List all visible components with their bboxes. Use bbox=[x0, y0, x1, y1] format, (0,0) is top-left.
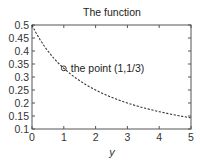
y-tick-label: 0.25 bbox=[9, 84, 30, 96]
y-tick-label: 0.3 bbox=[14, 71, 29, 83]
x-tick-label: 1 bbox=[61, 131, 67, 143]
x-tick-label: 0 bbox=[29, 131, 35, 143]
y-tick-label: 0.15 bbox=[9, 110, 30, 122]
x-tick-label: 2 bbox=[93, 131, 99, 143]
y-axis: 0.10.150.20.250.30.350.40.450.5 bbox=[9, 19, 191, 135]
function-chart: The function 0.10.150.20.250.30.350.40.4… bbox=[0, 0, 200, 165]
chart-title: The function bbox=[83, 6, 141, 18]
y-tick-label: 0.1 bbox=[14, 123, 29, 135]
x-tick-label: 3 bbox=[124, 131, 130, 143]
point-annotation: the point (1,1/3) bbox=[71, 62, 145, 74]
y-tick-label: 0.35 bbox=[9, 58, 30, 70]
y-tick-label: 0.4 bbox=[14, 45, 29, 57]
x-axis: 012345 bbox=[29, 25, 194, 143]
x-tick-label: 4 bbox=[156, 131, 162, 143]
x-tick-label: 5 bbox=[188, 131, 194, 143]
y-tick-label: 0.45 bbox=[9, 32, 30, 44]
y-tick-label: 0.2 bbox=[14, 97, 29, 109]
y-tick-label: 0.5 bbox=[14, 19, 29, 31]
x-axis-label: y bbox=[108, 146, 116, 158]
